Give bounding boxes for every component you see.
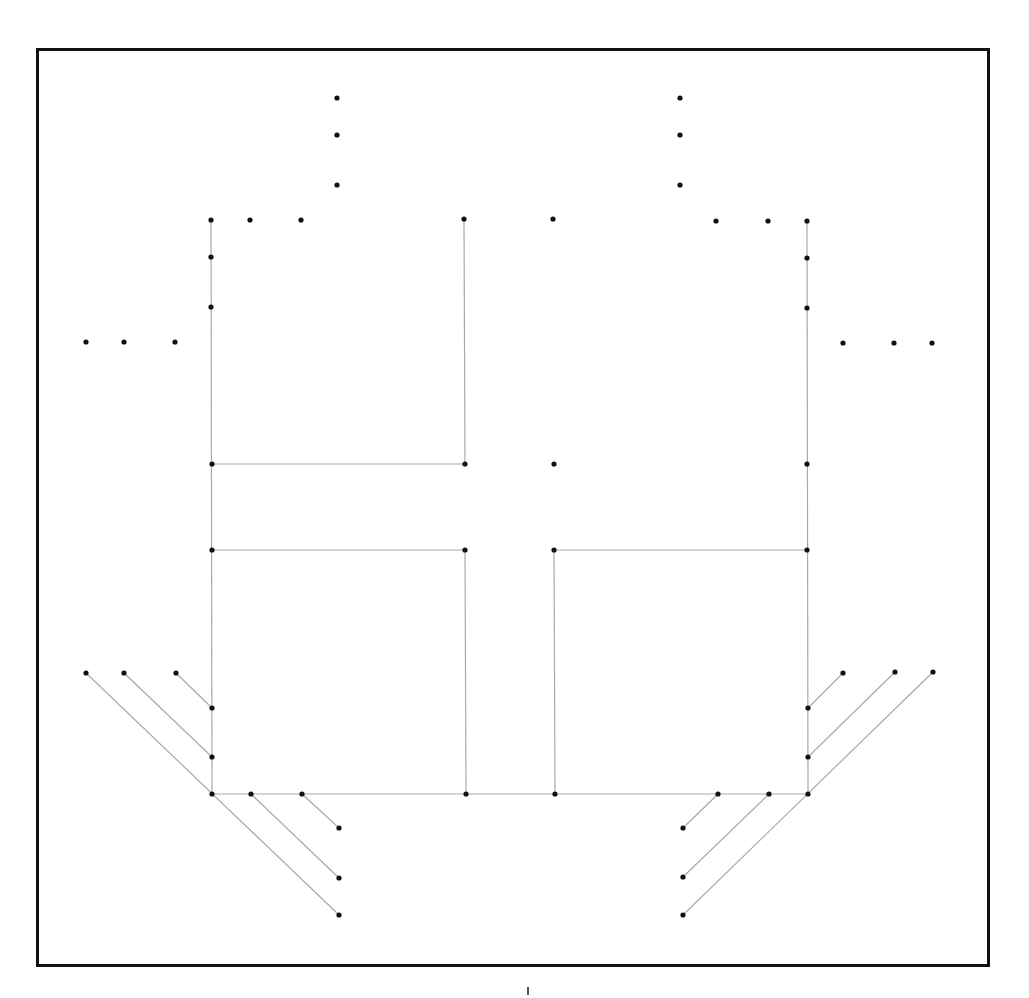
node-dot-R-3: [804, 305, 809, 310]
node-dot-L-bot: [209, 791, 214, 796]
node-dot-C1-550: [462, 547, 467, 552]
edge-line: [683, 794, 769, 877]
node-dot-ml-1: [83, 339, 88, 344]
node-dot-ml-2: [121, 339, 126, 344]
node-dot-b-h1: [248, 791, 253, 796]
node-dot-R-550: [804, 547, 809, 552]
edge-line: [808, 672, 895, 757]
node-dot-bl-2: [121, 670, 126, 675]
node-dot-bl-3: [173, 670, 178, 675]
node-dot-bbr-3: [680, 912, 685, 917]
node-dot-tr-v2: [677, 132, 682, 137]
node-dot-b-h2: [299, 791, 304, 796]
node-dot-tr-v3: [677, 182, 682, 187]
node-dot-L-550: [209, 547, 214, 552]
node-dot-bbl-3: [336, 912, 341, 917]
footer-tick-mark: [527, 987, 529, 995]
node-dot-R-bot: [805, 791, 810, 796]
edge-line: [683, 794, 718, 828]
node-dot-bbr-2: [680, 874, 685, 879]
edge-line: [124, 673, 212, 757]
node-dot-mr-1: [840, 340, 845, 345]
node-dot-tr-v1: [677, 95, 682, 100]
node-dot-R-708: [805, 705, 810, 710]
edge-line: [302, 794, 339, 828]
edge-line: [465, 550, 466, 794]
node-dot-tl-v3: [334, 182, 339, 187]
node-dot-R-464: [804, 461, 809, 466]
node-dot-L-757: [209, 754, 214, 759]
node-dot-C1-bot: [463, 791, 468, 796]
node-dot-br-1: [840, 670, 845, 675]
node-dot-C2-464: [551, 461, 556, 466]
node-dot-C2-550: [551, 547, 556, 552]
edge-line: [554, 550, 555, 794]
node-dot-L-2: [208, 254, 213, 259]
node-dot-t-h3: [713, 218, 718, 223]
node-dot-b-h3: [715, 791, 720, 796]
edge-line: [464, 219, 465, 464]
node-dot-bbl-2: [336, 875, 341, 880]
node-dot-R-top: [804, 218, 809, 223]
node-dot-L-708: [209, 705, 214, 710]
node-dot-C2-top: [550, 216, 555, 221]
node-dot-C1-464: [462, 461, 467, 466]
node-dot-tl-v2: [334, 132, 339, 137]
node-dot-tl-v1: [334, 95, 339, 100]
node-dot-L-3: [208, 304, 213, 309]
node-dot-br-2: [892, 669, 897, 674]
node-dot-ml-3: [172, 339, 177, 344]
node-dot-C2-bot: [552, 791, 557, 796]
node-dot-t-h1: [247, 217, 252, 222]
graph-diagram: [0, 0, 1029, 998]
node-dot-bl-1: [83, 670, 88, 675]
edges-layer: [86, 219, 933, 915]
node-dot-R-757: [805, 754, 810, 759]
node-dot-t-h4: [765, 218, 770, 223]
node-dot-L-464: [209, 461, 214, 466]
edge-line: [251, 794, 339, 878]
node-dot-L-top: [208, 217, 213, 222]
node-dot-bbl-1: [336, 825, 341, 830]
node-dot-t-h2: [298, 217, 303, 222]
node-dot-br-3: [930, 669, 935, 674]
edge-line: [808, 673, 843, 708]
edge-line: [176, 673, 212, 708]
node-dot-b-h4: [766, 791, 771, 796]
node-dot-mr-2: [891, 340, 896, 345]
node-dot-mr-3: [929, 340, 934, 345]
node-dot-bbr-1: [680, 825, 685, 830]
node-dot-R-2: [804, 255, 809, 260]
node-dot-C1-top: [461, 216, 466, 221]
